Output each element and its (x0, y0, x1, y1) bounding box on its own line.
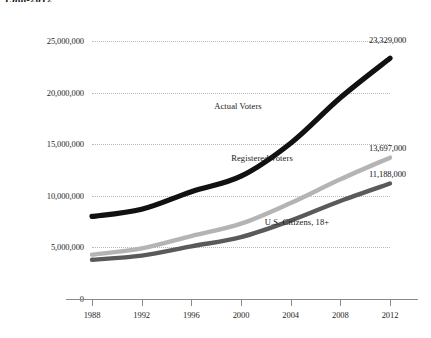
series-endpoint-value-label: 11,188,000 (369, 169, 406, 179)
x-axis-tick-label: 2008 (332, 310, 349, 320)
x-axis-tick-label: 1988 (84, 310, 101, 320)
series-annotation-label: U.S. Citizens, 18+ (265, 217, 329, 227)
series-endpoint-value-label: 13,697,000 (369, 143, 406, 153)
series-line (92, 58, 390, 216)
x-axis-tick-label: 2012 (382, 310, 399, 320)
series-layer (0, 0, 431, 338)
line-chart: 1988-2012 05,000,00010,000,00015,000,000… (0, 0, 431, 338)
x-axis-tick (191, 299, 192, 306)
x-axis-tick-label: 2000 (233, 310, 250, 320)
x-axis-tick-label: 1996 (183, 310, 200, 320)
x-axis-tick (390, 299, 391, 306)
series-endpoint-value-label: 23,329,000 (369, 35, 406, 45)
x-axis-tick (340, 299, 341, 306)
x-axis-tick (241, 299, 242, 306)
series-annotation-label: Registered Voters (231, 153, 293, 163)
series-annotation-label: Actual Voters (214, 101, 262, 111)
x-axis-tick (142, 299, 143, 306)
x-axis-tick (92, 299, 93, 306)
series-line (92, 158, 390, 255)
x-axis-tick-label: 1992 (133, 310, 150, 320)
x-axis-tick (291, 299, 292, 306)
x-axis-tick-label: 2004 (282, 310, 299, 320)
